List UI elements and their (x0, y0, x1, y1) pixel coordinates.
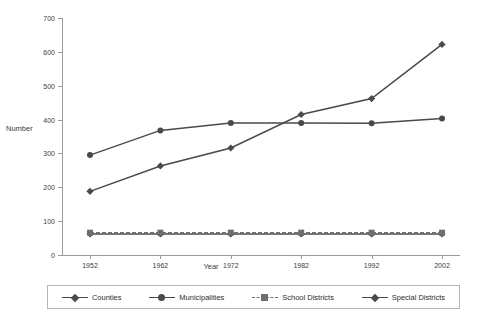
legend-swatch-square-icon (252, 293, 278, 302)
y-tick-label: 400 (43, 116, 55, 123)
y-tick-mark (58, 255, 62, 256)
series-special-districts (86, 41, 445, 195)
x-axis-title-text: Year (203, 262, 218, 271)
y-tick-label: 200 (43, 184, 55, 191)
y-axis-title: Number (6, 124, 33, 133)
data-point (87, 152, 93, 158)
x-axis-title: Year (0, 262, 502, 271)
legend-item-municipalities[interactable]: Municipalities (149, 293, 224, 302)
data-point (369, 120, 375, 126)
legend-marker-diamond-icon (370, 293, 378, 301)
x-tick-mark (301, 255, 302, 259)
data-point (439, 116, 445, 122)
data-point (157, 230, 163, 236)
data-point (298, 111, 305, 118)
series-layer (62, 18, 460, 255)
data-point (228, 230, 234, 236)
x-axis-line (62, 255, 460, 256)
legend-item-label: Municipalities (179, 293, 224, 302)
legend-swatch-diamond-icon (62, 293, 88, 302)
data-point (298, 120, 304, 126)
y-tick-label: 500 (43, 82, 55, 89)
series-municipalities (87, 116, 445, 159)
data-point (298, 230, 304, 236)
legend-marker-circle-icon (158, 294, 165, 301)
data-point (228, 120, 234, 126)
data-point (157, 127, 163, 133)
legend-swatch-diamond-icon (362, 293, 388, 302)
x-tick-mark (160, 255, 161, 259)
legend-marker-square-icon (261, 294, 268, 301)
series-line (90, 119, 442, 156)
y-tick-label: 0 (51, 252, 55, 259)
data-point (157, 162, 164, 169)
data-point (369, 230, 375, 236)
chart-legend: CountiesMunicipalitiesSchool DistrictsSp… (47, 285, 460, 309)
x-tick-mark (231, 255, 232, 259)
y-tick-label: 100 (43, 218, 55, 225)
y-tick-label: 600 (43, 48, 55, 55)
legend-item-label: Counties (92, 293, 122, 302)
legend-item-special-districts[interactable]: Special Districts (362, 293, 445, 302)
plot-area: 0100200300400500600700 19521962197219821… (62, 18, 460, 255)
legend-item-label: Special Districts (392, 293, 445, 302)
y-tick-label: 700 (43, 15, 55, 22)
legend-item-counties[interactable]: Counties (62, 293, 122, 302)
legend-item-label: School Districts (282, 293, 334, 302)
series-counties (86, 230, 445, 237)
y-tick-label: 300 (43, 150, 55, 157)
data-point (439, 230, 445, 236)
legend-swatch-circle-icon (149, 293, 175, 302)
x-tick-mark (442, 255, 443, 259)
line-chart: Number 0100200300400500600700 1952196219… (0, 0, 502, 321)
x-tick-mark (372, 255, 373, 259)
x-tick-mark (90, 255, 91, 259)
legend-item-school-districts[interactable]: School Districts (252, 293, 334, 302)
legend-marker-diamond-icon (71, 293, 79, 301)
data-point (86, 188, 93, 195)
data-point (87, 230, 93, 236)
data-point (227, 144, 234, 151)
series-line (90, 44, 442, 191)
